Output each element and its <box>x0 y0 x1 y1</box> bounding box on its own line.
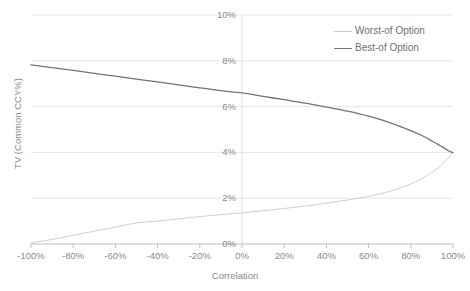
chart-legend: Worst-of Option Best-of Option <box>333 22 465 56</box>
legend-item-best-of-option[interactable]: Best-of Option <box>333 39 465 56</box>
y-tick-label-0: 0% <box>186 238 236 249</box>
y-tick-label-10: 10% <box>186 9 236 20</box>
x-tick-marks <box>31 244 453 248</box>
x-axis-title: Correlation <box>0 270 470 281</box>
legend-item-worst-of-option[interactable]: Worst-of Option <box>333 22 465 39</box>
legend-label-best-of-option: Best-of Option <box>353 42 419 53</box>
y-tick-label-2: 2% <box>186 192 236 203</box>
y-axis-title: TV (Common CCY%) <box>12 59 23 189</box>
chart-container: 0%2%4%6%8%10% -100%-80%-60%-40%-20%0%20%… <box>0 0 470 291</box>
y-tick-label-8: 8% <box>186 55 236 66</box>
legend-line-icon-best-of-option <box>333 43 353 52</box>
legend-label-worst-of-option: Worst-of Option <box>353 25 425 36</box>
legend-line-icon-worst-of-option <box>333 26 353 35</box>
x-tick-label-100: 100% <box>428 250 470 261</box>
y-tick-label-4: 4% <box>186 146 236 157</box>
y-tick-label-6: 6% <box>186 101 236 112</box>
